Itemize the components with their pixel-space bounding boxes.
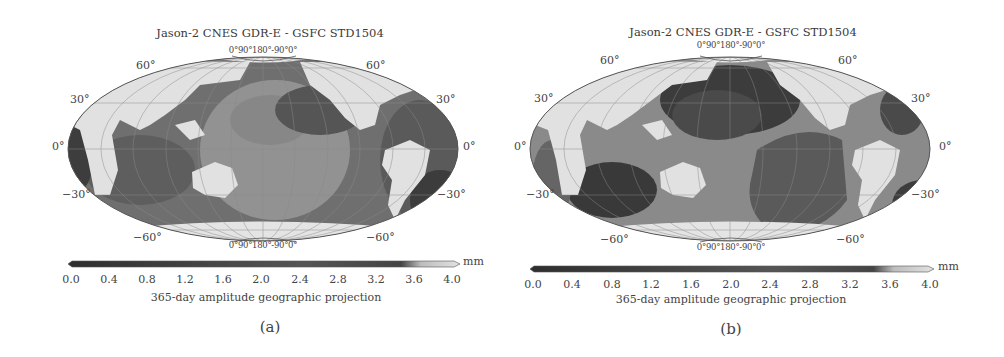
lat-label-n30-left-b: 30° <box>534 92 554 105</box>
panel-caption-a: (a) <box>260 318 281 336</box>
colorbar-a <box>68 261 460 267</box>
panel-b: Jason-2 CNES GDR-E - GSFC STD1504 0°90°1… <box>502 0 1004 357</box>
lat-label-n30-right-a: 30° <box>436 93 456 106</box>
lat-label-eq-right-a: 0° <box>463 140 476 153</box>
colorbar-label-b: 365-day amplitude geographic projection <box>616 293 847 306</box>
panel-a: Jason-2 CNES GDR-E - GSFC STD1504 0°90°1… <box>0 0 502 357</box>
tick: 0.0 <box>62 273 80 286</box>
lat-label-s30-right-b: −30° <box>911 188 940 201</box>
lat-label-eq-right-b: 0° <box>939 140 952 153</box>
tick: 2.0 <box>722 278 740 291</box>
lat-label-s30-right-a: −30° <box>437 188 466 201</box>
tick: 2.4 <box>761 278 779 291</box>
lat-label-n60-right-a: 60° <box>366 59 386 72</box>
lat-label-s60-left-b: −60° <box>600 233 629 246</box>
polar-label-top-b: 0°90°180°-90°0° <box>697 40 765 50</box>
lat-label-s60-right-b: −60° <box>836 233 865 246</box>
panel-caption-b: (b) <box>720 320 741 338</box>
lat-label-n60-left-a: 60° <box>136 59 156 72</box>
tick: 3.6 <box>881 278 899 291</box>
lat-label-n60-left-b: 60° <box>600 54 620 67</box>
chart-title-a: Jason-2 CNES GDR-E - GSFC STD1504 <box>156 26 383 40</box>
colorbar-b <box>530 266 934 272</box>
lat-label-n30-left-a: 30° <box>70 93 90 106</box>
lat-label-s60-left-a: −60° <box>133 231 162 244</box>
tick: 4.0 <box>921 278 939 291</box>
tick: 2.8 <box>329 273 347 286</box>
chart-title-b: Jason-2 CNES GDR-E - GSFC STD1504 <box>629 25 856 39</box>
colorbar-label-a: 365-day amplitude geographic projection <box>151 291 382 304</box>
tick: 0.0 <box>524 278 542 291</box>
lat-label-s60-right-a: −60° <box>366 231 395 244</box>
colorbar-unit-b: mm <box>938 260 959 273</box>
tick: 0.4 <box>563 278 581 291</box>
lat-label-eq-left-a: 0° <box>52 140 65 153</box>
tick: 0.4 <box>100 273 118 286</box>
tick: 1.2 <box>642 278 660 291</box>
tick: 2.0 <box>252 273 270 286</box>
tick: 1.6 <box>214 273 232 286</box>
tick: 2.8 <box>801 278 819 291</box>
lat-label-n60-right-b: 60° <box>838 54 858 67</box>
tick: 0.8 <box>603 278 621 291</box>
lat-label-s30-left-a: −30° <box>62 188 91 201</box>
lat-label-eq-left-b: 0° <box>514 140 527 153</box>
tick: 3.2 <box>367 273 385 286</box>
polar-label-bottom-a: 0°90°180°-90°0° <box>229 240 297 250</box>
polar-label-bottom-b: 0°90°180°-90°0° <box>697 242 765 252</box>
tick: 1.6 <box>682 278 700 291</box>
tick: 2.4 <box>291 273 309 286</box>
tick: 3.2 <box>841 278 859 291</box>
lat-label-s30-left-b: −30° <box>526 188 555 201</box>
tick: 1.2 <box>176 273 194 286</box>
colorbar-unit-a: mm <box>463 255 484 268</box>
tick: 0.8 <box>138 273 156 286</box>
tick: 4.0 <box>443 273 461 286</box>
tick: 3.6 <box>405 273 423 286</box>
polar-label-top-a: 0°90°180°-90°0° <box>229 45 297 55</box>
lat-label-n30-right-b: 30° <box>911 92 931 105</box>
